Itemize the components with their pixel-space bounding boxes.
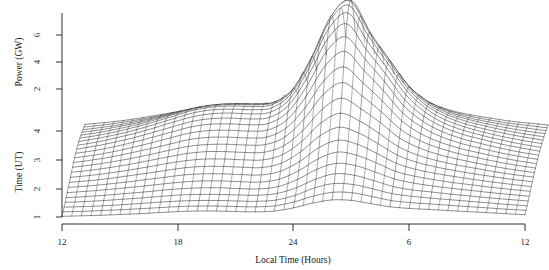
y-tick-label-power-2: 2 <box>32 87 42 92</box>
y-axis-ticks <box>56 35 62 217</box>
y-axis-title-time-ut: Time (UT) <box>14 151 25 192</box>
y-tick-label-ut-3: 3 <box>32 157 42 162</box>
y-tick-label-ut-1: 1 <box>32 215 42 220</box>
y-tick-label-ut-4: 4 <box>32 128 42 133</box>
x-axis-ticks <box>62 224 525 231</box>
x-axis-title: Local Time (Hours) <box>255 255 330 266</box>
x-tick-label-18: 18 <box>174 237 184 247</box>
y-axis-title-power: Power (GW) <box>14 38 25 87</box>
y-tick-label-power-4: 4 <box>32 59 42 64</box>
plot-canvas: 6 4 2 4 3 2 1 Power (GW) Time (UT) 12 18… <box>0 0 549 270</box>
wireframe-mesh-surface <box>62 0 548 220</box>
x-tick-label-12-end: 12 <box>521 237 530 247</box>
y-tick-label-ut-2: 2 <box>32 187 42 192</box>
figure-3d-waterfall-plot: 6 4 2 4 3 2 1 Power (GW) Time (UT) 12 18… <box>0 0 549 270</box>
y-tick-label-power-6: 6 <box>32 32 42 37</box>
x-tick-label-6: 6 <box>407 237 412 247</box>
x-tick-label-12-start: 12 <box>58 237 67 247</box>
x-tick-label-24: 24 <box>289 237 299 247</box>
